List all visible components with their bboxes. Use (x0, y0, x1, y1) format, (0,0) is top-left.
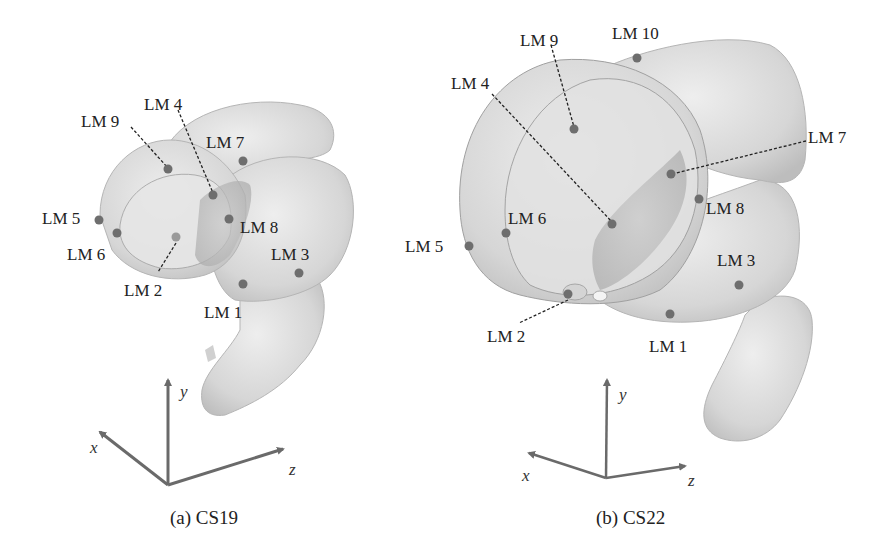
lm6-dot (113, 229, 122, 238)
panel-b-lm7-label: LM 7 (808, 129, 846, 146)
panel-a-lm6-label: LM 6 (67, 246, 105, 263)
panel-a-lm8-label: LM 8 (240, 219, 278, 236)
panel-b-lm8-label: LM 8 (706, 200, 744, 217)
lm9-dot (164, 165, 173, 174)
figure-graphics (0, 0, 896, 559)
panel-b-lm6-label: LM 6 (508, 210, 546, 227)
panel-b-axis-y-label: y (619, 386, 627, 403)
lm1-dot (666, 310, 675, 319)
panel-b-lm2-label: LM 2 (487, 328, 525, 345)
panel-a-axis-y-label: y (180, 383, 188, 400)
lm3-dot (295, 269, 304, 278)
lm2-dot (564, 290, 573, 299)
figure: LM 4 LM 9 LM 7 LM 5 LM 8 LM 6 LM 3 LM 2 … (0, 0, 896, 559)
panel-b-lm5-label: LM 5 (405, 238, 443, 255)
lm4-dot (608, 220, 617, 229)
lm4-dot (209, 191, 218, 200)
lm5-dot (95, 216, 104, 225)
panel-a-lm2-label: LM 2 (124, 282, 162, 299)
panel-b-brain (460, 40, 813, 441)
lm3-dot (735, 281, 744, 290)
panel-b-lm3-label: LM 3 (717, 252, 755, 269)
panel-b-lm9-label: LM 9 (520, 32, 558, 49)
lm2-dot (172, 233, 181, 242)
lm8-dot (225, 215, 234, 224)
panel-a-lm3-label: LM 3 (271, 246, 309, 263)
panel-a-lm9-label: LM 9 (81, 113, 119, 130)
panel-b-lm1-label: LM 1 (649, 338, 687, 355)
lm5-dot (465, 242, 474, 251)
lm7-dot (239, 157, 248, 166)
panel-b-axes (529, 380, 685, 478)
lm1-dot (239, 280, 248, 289)
panel-b-axis-x-label: x (522, 467, 530, 484)
panel-b-axis-z-label: z (688, 472, 695, 489)
lm7-dot (667, 170, 676, 179)
panel-a-axis-x-label: x (90, 439, 98, 456)
panel-a-lm4-label: LM 4 (144, 96, 182, 113)
lm9-dot (570, 125, 579, 134)
lm10-dot (633, 54, 642, 63)
panel-a-axis-z-label: z (289, 461, 296, 478)
panel-a-lm1-label: LM 1 (204, 304, 242, 321)
panel-a-lm5-label: LM 5 (42, 210, 80, 227)
panel-b-caption: (b) CS22 (596, 508, 665, 527)
lm6-dot (502, 229, 511, 238)
panel-a-lm7-label: LM 7 (206, 134, 244, 151)
panel-b-lm4-label: LM 4 (451, 75, 489, 92)
panel-b-lm10-label: LM 10 (612, 25, 659, 42)
lm8-dot (695, 195, 704, 204)
panel-a-caption: (a) CS19 (170, 508, 238, 527)
